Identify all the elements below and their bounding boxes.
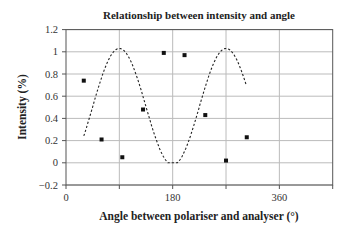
fit-curve bbox=[84, 49, 246, 163]
data-point bbox=[120, 155, 124, 159]
y-tick-label: 1.2 bbox=[45, 24, 58, 35]
y-tick-label: 0 bbox=[53, 157, 58, 168]
data-point bbox=[141, 108, 145, 112]
x-axis-label: Angle between polariser and analyser (°) bbox=[99, 210, 299, 223]
y-tick-label: 0.2 bbox=[45, 135, 58, 146]
x-tick-label: 180 bbox=[165, 192, 181, 203]
x-tick-label: 360 bbox=[271, 192, 287, 203]
y-axis-ticks: −0.200.20.40.60.811.2 bbox=[39, 24, 66, 190]
data-point bbox=[183, 53, 187, 57]
x-axis-ticks: 0180360 bbox=[63, 185, 332, 203]
chart-title: Relationship between intensity and angle bbox=[103, 9, 295, 21]
y-axis-label: Intensity (%) bbox=[16, 74, 29, 140]
data-point bbox=[82, 79, 86, 83]
y-tick-label: 0.8 bbox=[45, 69, 58, 80]
y-tick-label: 0.4 bbox=[45, 113, 59, 124]
data-points bbox=[82, 51, 249, 163]
x-tick-label: 0 bbox=[63, 192, 68, 203]
gridlines bbox=[66, 30, 333, 185]
chart: Relationship between intensity and angle… bbox=[0, 0, 349, 232]
plot-frame bbox=[66, 30, 333, 185]
y-tick-label: −0.2 bbox=[39, 180, 58, 191]
data-point bbox=[162, 51, 166, 55]
y-tick-label: 1 bbox=[53, 46, 58, 57]
data-point bbox=[245, 135, 249, 139]
data-point bbox=[203, 113, 207, 117]
data-point bbox=[100, 137, 104, 141]
y-tick-label: 0.6 bbox=[45, 91, 58, 102]
data-point bbox=[224, 159, 228, 163]
